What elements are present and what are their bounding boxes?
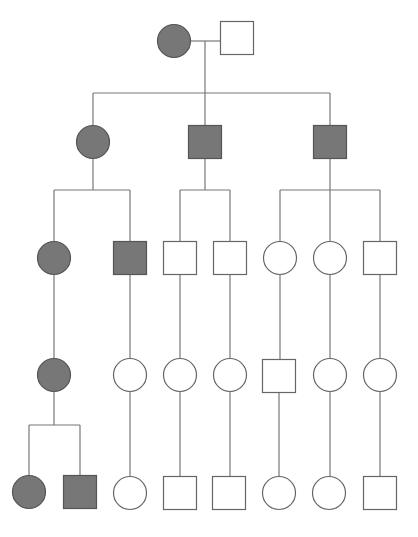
unaffected-male-symbol-III-3 [164,242,197,275]
unaffected-male-symbol-III-7 [364,242,397,275]
unaffected-female-symbol-V-7 [313,477,346,510]
affected-female-symbol-I-1 [158,25,191,58]
unaffected-female-symbol-III-6 [314,242,347,275]
affected-male-symbol-II-3 [314,126,347,159]
affected-female-symbol-IV-1 [38,359,71,392]
unaffected-male-symbol-V-8 [364,477,397,510]
unaffected-female-symbol-IV-4 [214,359,247,392]
unaffected-male-symbol-IV-5 [263,360,296,393]
unaffected-male-symbol-I-2 [221,22,254,55]
unaffected-male-symbol-V-5 [213,477,246,510]
unaffected-female-symbol-IV-3 [164,359,197,392]
unaffected-female-symbol-V-3 [114,477,147,510]
affected-female-symbol-III-1 [38,242,71,275]
unaffected-female-symbol-IV-6 [314,359,347,392]
unaffected-male-symbol-V-4 [164,477,197,510]
unaffected-female-symbol-V-6 [263,477,296,510]
pedigree-chart [0,0,418,537]
unaffected-female-symbol-III-5 [264,242,297,275]
affected-male-symbol-II-2 [189,126,222,159]
affected-female-symbol-V-1 [13,476,46,509]
unaffected-female-symbol-IV-2 [114,359,147,392]
unaffected-male-symbol-III-4 [214,242,247,275]
affected-female-symbol-II-1 [77,126,110,159]
affected-male-symbol-III-2 [114,242,147,275]
unaffected-female-symbol-IV-7 [364,359,397,392]
affected-male-symbol-V-2 [64,476,97,509]
